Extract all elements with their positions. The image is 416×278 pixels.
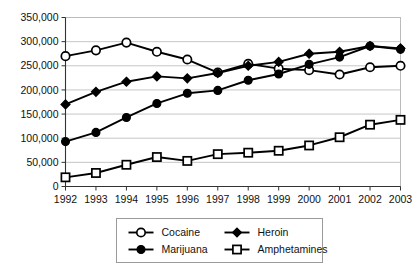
data-point-marker-heroin — [152, 72, 161, 81]
data-point-marker-amphetamines — [153, 153, 161, 161]
data-point-marker-cocaine — [122, 38, 130, 46]
y-tick-label: 200,000 — [21, 84, 59, 96]
series-line-amphetamines — [66, 120, 401, 177]
data-point-marker-amphetamines — [366, 121, 374, 129]
x-tick-label: 1992 — [54, 193, 78, 205]
legend-item-marijuana[interactable]: Marijuana — [129, 243, 208, 255]
data-point-marker-marijuana — [123, 114, 131, 122]
data-point-marker-amphetamines — [335, 133, 343, 141]
x-tick-label: 2002 — [358, 193, 382, 205]
data-point-marker-cocaine — [396, 62, 404, 70]
data-point-marker-cocaine — [61, 52, 69, 60]
data-point-marker-amphetamines — [92, 169, 100, 177]
data-point-marker-marijuana — [62, 138, 70, 146]
x-axis-labels: 1992199319941995199619971998199920002001… — [54, 193, 413, 205]
series-line-heroin — [66, 46, 401, 104]
data-point-marker-amphetamines — [396, 116, 404, 124]
x-tick-label: 1995 — [145, 193, 169, 205]
line-chart: 050,000100,000150,000200,000250,000300,0… — [0, 0, 416, 278]
data-point-marker-cocaine — [92, 46, 100, 54]
legend-item-amphetamines[interactable]: Amphetamines — [225, 243, 328, 255]
plot-area-border — [66, 18, 401, 187]
data-point-marker-marijuana — [305, 60, 313, 68]
data-point-marker-amphetamines — [183, 157, 191, 165]
data-point-marker-marijuana — [92, 129, 100, 137]
plot-frame — [66, 18, 401, 187]
x-tick-label: 1998 — [237, 193, 261, 205]
x-tick-label: 2001 — [328, 193, 352, 205]
data-point-marker-marijuana — [214, 87, 222, 95]
y-tick-label: 350,000 — [21, 11, 59, 23]
data-point-marker-marijuana — [153, 100, 161, 108]
data-series — [61, 38, 405, 181]
axis-ticks — [62, 18, 401, 191]
data-point-marker-heroin — [183, 74, 192, 83]
data-point-marker-marijuana — [275, 70, 283, 78]
y-tick-label: 300,000 — [21, 35, 59, 47]
data-point-marker-amphetamines — [122, 161, 130, 169]
y-tick-label: 0 — [53, 180, 59, 192]
data-point-marker-marijuana — [366, 42, 374, 50]
x-tick-label: 2000 — [297, 193, 321, 205]
legend-label: Amphetamines — [258, 243, 328, 255]
legend-border — [117, 219, 323, 263]
data-point-marker-marijuana — [397, 45, 405, 53]
y-tick-label: 250,000 — [21, 59, 59, 71]
series-amphetamines — [61, 116, 404, 182]
y-tick-label: 150,000 — [21, 108, 59, 120]
chart-legend: CocaineHeroinMarijuanaAmphetamines — [117, 219, 328, 263]
y-tick-label: 50,000 — [26, 156, 58, 168]
data-point-marker-amphetamines-legend — [233, 245, 241, 253]
data-point-marker-amphetamines — [61, 173, 69, 181]
series-line-marijuana — [66, 46, 401, 142]
y-tick-label: 100,000 — [21, 132, 59, 144]
data-point-marker-amphetamines — [214, 150, 222, 158]
data-point-marker-cocaine — [153, 48, 161, 56]
data-point-marker-cocaine-legend — [137, 228, 145, 236]
x-tick-label: 1994 — [115, 193, 139, 205]
data-point-marker-heroin — [122, 77, 131, 86]
y-axis-labels: 050,000100,000150,000200,000250,000300,0… — [21, 11, 59, 192]
data-point-marker-amphetamines — [275, 147, 283, 155]
series-marijuana — [62, 42, 405, 145]
legend-label: Marijuana — [162, 243, 208, 255]
data-point-marker-marijuana-legend — [137, 246, 145, 254]
data-point-marker-cocaine — [366, 63, 374, 71]
chart-container: 050,000100,000150,000200,000250,000300,0… — [0, 0, 416, 278]
data-point-marker-amphetamines — [244, 149, 252, 157]
legend-label: Cocaine — [162, 226, 201, 238]
x-tick-label: 1993 — [84, 193, 108, 205]
x-tick-label: 1996 — [176, 193, 200, 205]
data-point-marker-marijuana — [336, 53, 344, 61]
legend-label: Heroin — [258, 226, 289, 238]
data-point-marker-heroin — [92, 87, 101, 96]
data-point-marker-marijuana — [183, 89, 191, 97]
data-point-marker-heroin — [305, 49, 314, 58]
data-point-marker-cocaine — [335, 70, 343, 78]
data-point-marker-heroin — [61, 100, 70, 109]
x-tick-label: 2003 — [389, 193, 413, 205]
x-tick-label: 1999 — [267, 193, 291, 205]
data-point-marker-cocaine — [183, 55, 191, 63]
gridlines — [66, 18, 401, 163]
x-tick-label: 1997 — [206, 193, 230, 205]
legend-item-cocaine[interactable]: Cocaine — [129, 226, 201, 238]
data-point-marker-amphetamines — [305, 141, 313, 149]
data-point-marker-marijuana — [244, 76, 252, 84]
series-cocaine — [61, 38, 404, 78]
